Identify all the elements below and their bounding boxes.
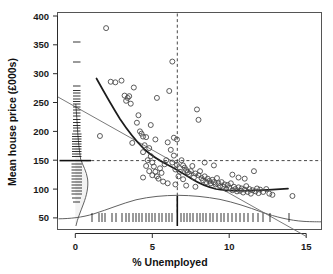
data-point (168, 147, 173, 152)
scatter-points-layer (97, 26, 295, 199)
x-tick-label-15: 15 (301, 241, 312, 252)
data-point (154, 95, 159, 100)
data-point (167, 88, 172, 93)
x-tick-label-10: 10 (224, 241, 235, 252)
data-point (141, 175, 146, 180)
plot-frame (58, 13, 322, 230)
data-point (196, 117, 201, 122)
data-point (267, 191, 272, 196)
data-point (211, 163, 216, 168)
data-point (214, 176, 219, 181)
data-point (153, 169, 158, 174)
data-point (242, 176, 247, 181)
scatter-plot-figure: 400 350 300 250 200 150 100 50 0 5 10 15… (0, 0, 333, 274)
x-axis (75, 234, 306, 239)
data-point (176, 174, 181, 179)
data-point (193, 184, 198, 189)
y-tick-label-50: 50 (38, 212, 49, 223)
y-tick-label-400: 400 (33, 11, 49, 22)
data-point (119, 78, 124, 83)
y-axis-title: Mean house price (£000s) (6, 58, 18, 186)
x-rug-plot (92, 213, 289, 222)
data-point (290, 193, 295, 198)
x-tick-label-5: 5 (150, 241, 156, 252)
data-point (134, 120, 139, 125)
data-point (230, 172, 235, 177)
data-point (131, 85, 136, 90)
y-tick-label-300: 300 (33, 68, 49, 79)
data-point (144, 163, 149, 168)
y-tick-label-350: 350 (33, 39, 49, 50)
data-point (128, 101, 133, 106)
data-point (153, 137, 158, 142)
data-point (130, 140, 135, 145)
data-point (181, 177, 186, 182)
data-point (236, 175, 241, 180)
x-axis-title: % Unemployed (132, 256, 207, 268)
data-point (165, 181, 170, 186)
data-point (165, 140, 170, 145)
data-point (270, 192, 275, 197)
data-point (190, 163, 195, 168)
data-point (104, 26, 109, 31)
y-tick-label-150: 150 (33, 155, 49, 166)
y-axis (53, 16, 58, 218)
data-point (136, 113, 141, 118)
x-tick-label-0: 0 (73, 241, 78, 252)
y-tick-label-100: 100 (33, 184, 49, 195)
data-point (184, 183, 189, 188)
data-point (170, 59, 175, 64)
chart-canvas: 400 350 300 250 200 150 100 50 0 5 10 15… (0, 0, 333, 274)
data-point (144, 135, 149, 140)
data-point (148, 123, 153, 128)
data-point (251, 169, 256, 174)
data-point (159, 170, 164, 175)
data-point (194, 107, 199, 112)
data-point (97, 133, 102, 138)
data-point (171, 153, 176, 158)
y-tick-label-200: 200 (33, 126, 49, 137)
y-tick-label-250: 250 (33, 97, 49, 108)
data-point (141, 150, 146, 155)
